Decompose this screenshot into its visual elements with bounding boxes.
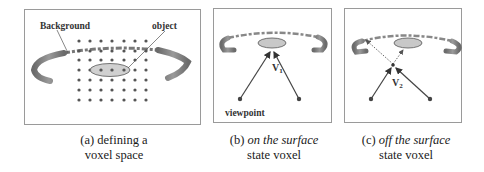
voxel-v2-label: V2 <box>392 77 403 90</box>
viewpoint-right <box>297 97 301 101</box>
panel-c-graphics: V2 <box>354 36 459 102</box>
background-label: Background <box>40 21 91 31</box>
dotted-ray-left <box>366 40 393 64</box>
caption-a-line1: (a) defining a <box>44 133 184 148</box>
object-ellipse <box>394 38 422 48</box>
viewpoint-left <box>369 97 373 101</box>
dotted-ray-right <box>393 50 403 64</box>
voxel-v1-label: V1 <box>272 62 283 75</box>
ray-right <box>274 52 299 99</box>
panel-a-graphics: Background object <box>34 21 188 102</box>
caption-b-line1: (b) on the surface <box>212 133 336 148</box>
viewpoint-left <box>238 97 242 101</box>
caption-c-line1: (c) off the surface <box>344 133 468 148</box>
viewpoint-right <box>428 97 432 101</box>
ray-left <box>240 52 270 99</box>
caption-a: (a) defining a voxel space <box>44 133 184 163</box>
background-leader-line <box>57 30 68 53</box>
caption-c: (c) off the surface state voxel <box>344 133 468 163</box>
caption-c-line2: state voxel <box>344 148 468 163</box>
voxel-v2-point <box>391 63 395 67</box>
object-label: object <box>152 21 178 31</box>
viewpoint-label: viewpoint <box>225 108 265 118</box>
panel-b-graphics: V1 viewpoint <box>222 33 325 118</box>
ray-left <box>371 68 391 99</box>
caption-b: (b) on the surface state voxel <box>212 133 336 163</box>
caption-a-line2: voxel space <box>44 148 184 163</box>
caption-b-line2: state voxel <box>212 148 336 163</box>
object-ellipse <box>258 38 286 48</box>
